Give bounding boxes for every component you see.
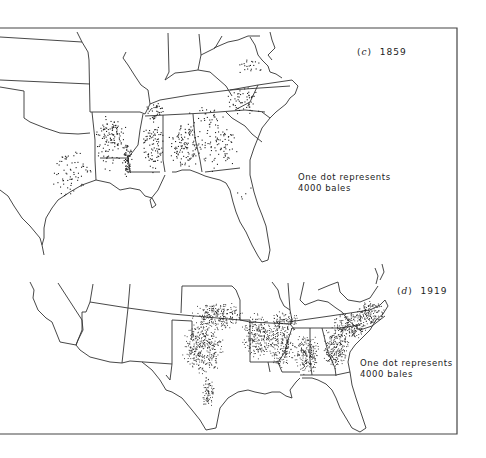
panel-year: 1859 [380,47,407,57]
panel-title-1859: (c) 1859 [357,47,407,58]
legend-1919: One dot represents 4000 bales [360,358,453,380]
legend-line-2: 4000 bales [298,183,391,194]
legend-line-1: One dot represents [360,358,453,369]
panel-title-1919: (d) 1919 [397,286,447,297]
legend-line-1: One dot represents [298,172,391,183]
panel-letter: c [362,47,368,57]
panel-letter: d [402,286,409,296]
cotton-maps-figure: (c) 1859 One dot represents 4000 bales (… [0,0,486,458]
legend-line-2: 4000 bales [360,369,453,380]
map-canvas [0,0,486,458]
map-1859 [0,32,298,262]
legend-1859: One dot represents 4000 bales [298,172,391,194]
panel-year: 1919 [421,286,448,296]
dots-1859 [53,60,261,200]
